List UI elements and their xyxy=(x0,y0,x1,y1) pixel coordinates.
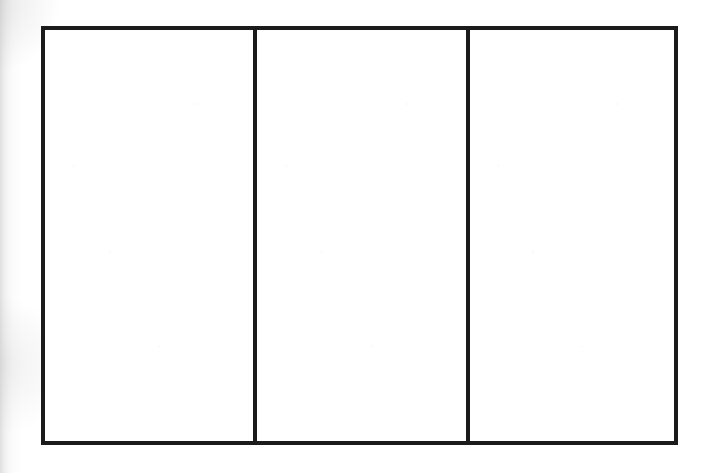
scan-shading-left-margin xyxy=(0,0,22,473)
panel-center xyxy=(257,30,470,441)
panel-row xyxy=(45,30,674,441)
panel-center-content xyxy=(257,30,466,441)
three-panel-rectangle-frame xyxy=(41,26,678,445)
panel-left xyxy=(45,30,257,441)
panel-right xyxy=(470,30,674,441)
page-canvas xyxy=(0,0,714,473)
panel-left-content xyxy=(45,30,253,441)
panel-right-content xyxy=(470,30,674,441)
